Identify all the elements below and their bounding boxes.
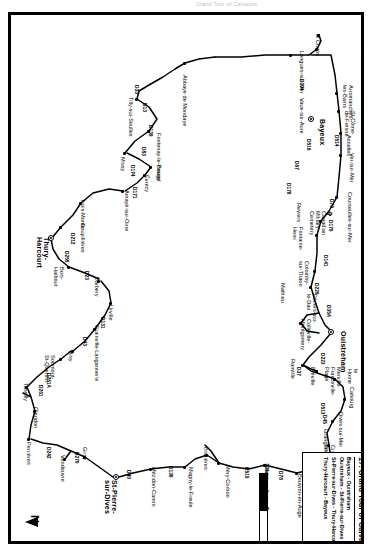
town-marker — [149, 166, 152, 169]
road-number-label: D43 — [82, 337, 87, 346]
town-marker — [27, 438, 30, 441]
place-label: Thury- Harcourt — [34, 237, 49, 268]
town-marker — [339, 132, 342, 135]
place-label: Bois- Halbout — [52, 267, 64, 286]
town-marker — [343, 398, 346, 401]
town-marker — [289, 54, 292, 57]
place-label: Bissières — [202, 447, 208, 470]
road-number-label: D40 — [126, 470, 131, 479]
place-label: Fontenay-le-Pesnel — [155, 133, 161, 182]
road-number-label: D212 — [70, 233, 75, 244]
place-label: le Home — [346, 369, 358, 384]
place-label: Missy — [119, 157, 125, 171]
road-number-label: D79 — [329, 199, 334, 208]
road-number-label: D141 — [323, 255, 328, 266]
legend-stage-3: St-Pierre-sur-Dives - Thury-Harcourt — [329, 457, 337, 544]
place-label: Perrières — [25, 442, 31, 465]
place-label: Trois-Monts — [79, 199, 85, 228]
place-label: Abbaye de Mondaye — [181, 75, 187, 126]
place-label: Bayeux — [318, 119, 325, 145]
town-marker — [339, 154, 342, 157]
place-label: Bréville — [309, 367, 315, 385]
road-number-label: D174 — [130, 165, 135, 176]
scale-bar: 0 5 10km — [259, 455, 271, 544]
place-label: Courseulles-sur-Mer — [346, 192, 352, 243]
place-label: Mézidon-Canon — [150, 467, 156, 507]
road-number-label: D139 — [148, 125, 153, 136]
road-number-label: D223 — [320, 353, 325, 364]
map-frame: ✞ le ChaosLongues-sur-MerVaux-sur-AureBa… — [8, 12, 364, 544]
place-label: Vendeuvre — [59, 455, 65, 482]
place-label: Mathieu — [279, 283, 285, 303]
place-label: Colleville- Montgomery — [299, 319, 311, 350]
place-label: Urville — [107, 305, 113, 321]
place-label: Cabourg — [348, 387, 354, 408]
road-number-label: D131 — [100, 317, 105, 328]
place-label: Tassilly — [22, 383, 28, 401]
road-number-label: D170 — [328, 220, 333, 231]
town-marker — [59, 358, 62, 361]
town-marker — [123, 152, 126, 155]
town-marker — [183, 62, 186, 65]
road-number-label: D67 — [294, 161, 299, 170]
road-number-label: D171 — [132, 187, 137, 198]
road-number-label: D138 — [168, 466, 173, 477]
town-marker — [67, 266, 70, 269]
legend-title: 17. Grand Tour of Calvados — [357, 457, 364, 544]
road-number-label: D78 — [278, 471, 283, 480]
town-marker — [335, 196, 338, 199]
road-number-label: D516 — [306, 139, 311, 150]
legend-divider — [354, 457, 355, 544]
legend-box: 17. Grand Tour of Calvados Bayeux - Ouis… — [302, 452, 364, 544]
place-label: St-Côme- de-Fresné — [343, 111, 355, 137]
place-label: Vaux-sur-Aure — [298, 98, 304, 134]
map-page: Grand Tour of Calvados — [0, 0, 372, 556]
town-marker — [331, 420, 334, 423]
town-marker — [183, 466, 186, 469]
legend-stage-2: Ouistreham - St-Pierre-sur-Dives — [337, 457, 345, 544]
town-marker — [335, 92, 338, 95]
road-number-label: D514 — [334, 135, 339, 146]
place-label: Grainville-Langannerie — [93, 325, 99, 381]
road-number-label: D242 — [46, 447, 51, 458]
place-label: Grisy — [81, 447, 87, 460]
north-arrow: N — [25, 513, 57, 535]
page-header-faint-text: Grand Tour of Calvados — [196, 1, 346, 8]
town-marker — [59, 226, 62, 229]
place-label: le Chaos — [314, 34, 320, 56]
place-label: Magny-le-Freule — [187, 467, 193, 508]
place-label: Fontaine- Henri — [291, 227, 303, 251]
place-label: Ver-sur-Mer — [348, 153, 354, 183]
place-label: Amayé-sur-Orne — [123, 190, 129, 231]
town-marker — [309, 286, 312, 289]
place-label: Aisy — [67, 351, 73, 362]
place-label: Tilly-sur-Seulles — [127, 97, 133, 137]
road-number-label: D23 — [84, 271, 89, 280]
north-label: N — [29, 515, 41, 523]
town-marker — [135, 98, 138, 101]
legend-stage-4: Thury-Harcourt - Bayeux — [322, 457, 330, 544]
place-label: Merville- Franceville- Plage — [324, 367, 341, 396]
road-number-label: D513 — [320, 403, 325, 414]
place-label: Olendon — [32, 407, 38, 428]
scale-tick-5: 5 — [264, 507, 270, 510]
place-label: Méry-Corbon — [224, 465, 230, 498]
place-label: St-Pierre- sur-Dives — [102, 480, 117, 514]
place-label: Colomby- sur-Thaon — [297, 261, 309, 287]
road-number-label: D33 — [134, 85, 139, 94]
road-number-label: D261A — [46, 373, 51, 388]
road-number-label: D37 — [296, 367, 301, 376]
cemetery-cross-icon: ✞ — [326, 211, 333, 217]
town-marker — [313, 270, 316, 273]
place-label: Dives-sur-Mer — [337, 412, 343, 447]
road-number-label: D220 — [314, 283, 319, 294]
road-number-label: D35A — [326, 305, 331, 317]
road-number-label: D178 — [286, 183, 291, 194]
copyright-mark: © IGN/CRT — [355, 48, 364, 90]
road-number-label: D83 — [141, 147, 146, 156]
place-label: Reviers — [295, 203, 301, 222]
road-number-label: D261 — [38, 385, 43, 396]
place-label: Barbery — [93, 277, 99, 297]
town-marker — [301, 364, 304, 367]
road-number-label: D270 — [74, 452, 79, 463]
